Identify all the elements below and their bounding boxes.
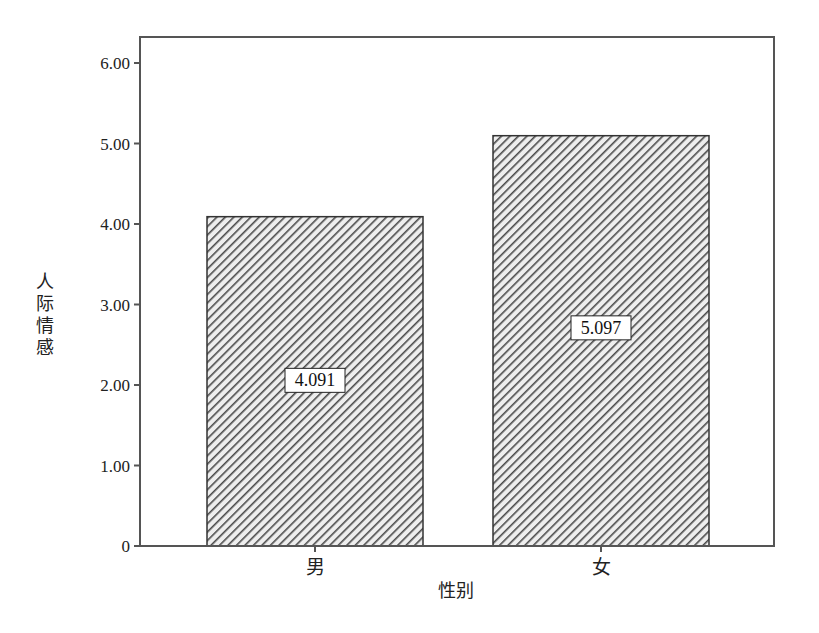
x-axis-title: 性别 [438, 580, 474, 601]
y-tick-label: 3.00 [100, 296, 130, 315]
bar-2 [493, 136, 709, 546]
y-tick-label: 1.00 [100, 457, 130, 476]
y-tick-label: 4.00 [100, 215, 130, 234]
y-axis: 01.002.003.004.005.006.00 [100, 54, 140, 556]
x-category-label: 男 [306, 556, 325, 578]
y-axis-title: 人际情感 [36, 271, 54, 358]
bar-chart: 01.002.003.004.005.006.00 4.0915.097 男女 … [0, 0, 819, 633]
y-tick-label: 2.00 [100, 376, 130, 395]
x-category-label: 女 [592, 556, 611, 578]
value-label: 5.097 [581, 318, 622, 338]
y-tick-label: 0 [122, 537, 131, 556]
y-tick-label: 5.00 [100, 135, 130, 154]
value-label: 4.091 [295, 370, 336, 390]
y-tick-label: 6.00 [100, 54, 130, 73]
x-axis: 男女 [134, 546, 774, 578]
